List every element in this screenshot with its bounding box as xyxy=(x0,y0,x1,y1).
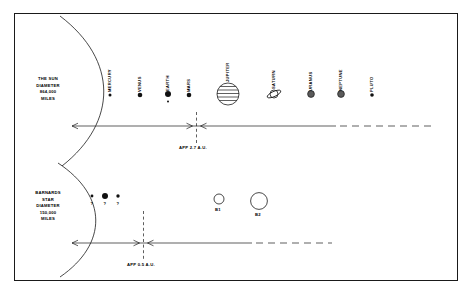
planet-label-mercury: MERCURY xyxy=(108,69,112,92)
planet-label-venus: VENUS xyxy=(138,76,142,92)
planet-label-mars: MARS xyxy=(187,79,191,92)
planet-label-earth: EARTH xyxy=(166,75,170,91)
barnards-star-caption: BARNARDS STAR DIAMETER 150,000 MILES xyxy=(22,190,74,223)
figure-canvas: THE SUN DIAMETER 864,000 MILES MERCURY V… xyxy=(0,0,474,295)
planet-label-pluto: PLUTO xyxy=(370,77,374,93)
companion-label-b1: B1 xyxy=(215,207,221,212)
sun-caption: THE SUN DIAMETER 864,000 MILES xyxy=(22,76,74,102)
planet-label-saturn: SATURN xyxy=(272,70,276,89)
unknown-planet-label-2: ? xyxy=(104,201,107,206)
planet-label-jupiter: JUPITER xyxy=(226,62,230,82)
unknown-planet-label-3: ? xyxy=(117,201,120,206)
diagram-frame xyxy=(14,13,458,281)
bottom-scale-label: APP 0.5 A.U. xyxy=(127,262,155,267)
planet-label-uranus: URANUS xyxy=(309,71,313,91)
companion-label-b2: B2 xyxy=(255,212,261,217)
barnards-caption-line-5: MILES xyxy=(22,216,74,223)
top-scale-label: APP 2.7 A.U. xyxy=(179,145,207,150)
sun-caption-line-4: MILES xyxy=(22,96,74,103)
unknown-planet-label-1: ? xyxy=(91,201,94,206)
planet-label-neptune: NEPTUNE xyxy=(339,69,343,91)
